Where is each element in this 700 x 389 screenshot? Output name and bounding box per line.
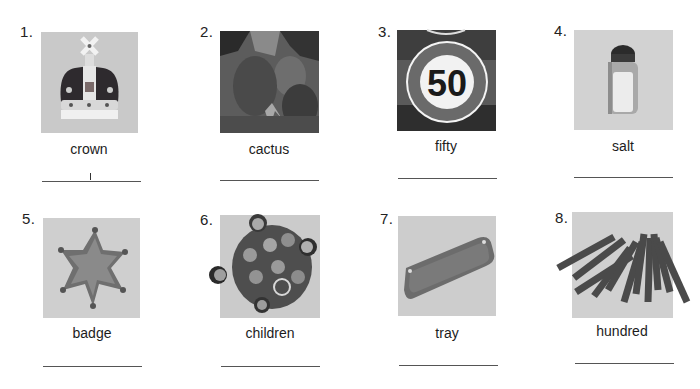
badge-image bbox=[43, 218, 140, 318]
item-word: badge bbox=[32, 325, 152, 341]
sign-number: 50 bbox=[427, 63, 467, 104]
speed-limit-sign-image: 50 bbox=[397, 30, 496, 131]
answer-line[interactable] bbox=[574, 177, 673, 178]
tray-image bbox=[398, 216, 496, 316]
item-word: cactus bbox=[209, 141, 329, 157]
cactus-image bbox=[220, 31, 319, 133]
children-image bbox=[220, 215, 320, 318]
item-number: 5. bbox=[22, 210, 36, 227]
answer-line[interactable] bbox=[399, 365, 498, 366]
hundred-rods-image bbox=[572, 212, 673, 318]
salt-shaker-image bbox=[574, 30, 673, 130]
answer-line[interactable] bbox=[43, 366, 142, 367]
answer-line[interactable] bbox=[575, 363, 674, 364]
answer-line[interactable] bbox=[398, 178, 497, 179]
answer-line[interactable] bbox=[221, 366, 320, 367]
item-word: hundred bbox=[562, 323, 682, 339]
item-number: 7. bbox=[380, 210, 394, 227]
item-number: 8. bbox=[555, 209, 569, 226]
item-word: tray bbox=[387, 325, 507, 341]
answer-line[interactable] bbox=[220, 180, 319, 181]
item-number: 4. bbox=[554, 22, 568, 39]
item-number: 3. bbox=[378, 23, 392, 40]
item-word: fifty bbox=[386, 138, 506, 154]
answer-line[interactable] bbox=[42, 181, 141, 182]
item-word: children bbox=[210, 325, 330, 341]
item-word: crown bbox=[29, 141, 149, 157]
item-word: salt bbox=[563, 138, 683, 154]
item-number: 1. bbox=[20, 23, 34, 40]
answer-mark bbox=[90, 173, 91, 180]
item-number: 6. bbox=[200, 211, 214, 228]
crown-image bbox=[41, 32, 138, 133]
item-number: 2. bbox=[200, 23, 214, 40]
